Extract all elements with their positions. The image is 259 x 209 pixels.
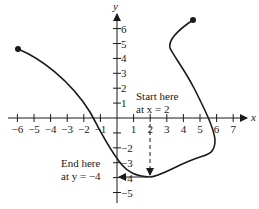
graph-figure: −6−5−4−3−2−11234567 654321−2−3−4−5 x y S… xyxy=(0,0,259,209)
x-tick-label: 1 xyxy=(131,123,137,135)
y-tick-label: 2 xyxy=(121,82,127,94)
y-tick-label: 4 xyxy=(121,52,127,64)
x-axis-label: x xyxy=(250,111,256,123)
x-tick-label: −6 xyxy=(12,123,24,135)
x-tick-label: 5 xyxy=(197,123,203,135)
x-tick-label: −3 xyxy=(61,123,73,135)
end-annotation-line2: at y = −4 xyxy=(61,170,101,182)
y-tick-label: 3 xyxy=(121,67,127,79)
x-tick-label: −5 xyxy=(28,123,40,135)
y-tick-label: −2 xyxy=(121,142,133,154)
x-tick-label: 6 xyxy=(214,123,220,135)
endpoint-left xyxy=(15,46,21,52)
x-tick-label: −4 xyxy=(45,123,57,135)
y-tick-label: 6 xyxy=(121,23,127,35)
x-tick-label: −2 xyxy=(78,123,90,135)
x-tick-label: 4 xyxy=(181,123,187,135)
endpoint-right xyxy=(190,17,196,23)
x-tick-label: 7 xyxy=(230,123,236,135)
start-annotation-line1: Start here xyxy=(136,90,179,102)
y-tick-label: −5 xyxy=(121,187,133,199)
x-tick-labels: −6−5−4−3−2−11234567 xyxy=(12,123,237,135)
y-tick-label: 5 xyxy=(121,38,127,50)
end-annotation-line1: End here xyxy=(61,157,101,169)
y-axis-label: y xyxy=(112,0,118,12)
start-annotation-line2: at x = 2 xyxy=(136,103,169,115)
graph-svg: −6−5−4−3−2−11234567 654321−2−3−4−5 x y S… xyxy=(0,0,259,209)
x-tick-label: 3 xyxy=(164,123,170,135)
y-tick-label: 1 xyxy=(121,97,127,109)
